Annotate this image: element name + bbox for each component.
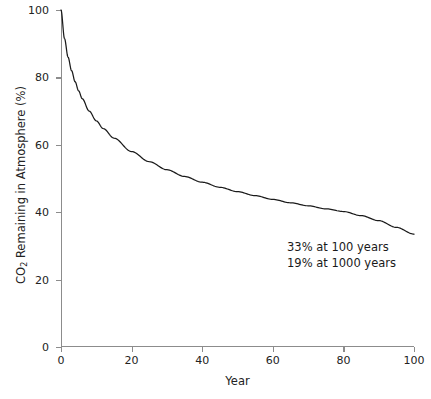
y-tick-40 <box>56 212 61 213</box>
x-tick-20 <box>132 347 133 352</box>
y-axis-title: CO2 Remaining in Atmosphere (%) <box>14 15 28 355</box>
x-tick-label-20: 20 <box>112 354 152 367</box>
y-tick-80 <box>56 77 61 78</box>
x-axis-line <box>61 346 414 347</box>
x-tick-label-40: 40 <box>182 354 222 367</box>
x-tick-label-60: 60 <box>253 354 293 367</box>
co2-decay-chart: 020406080100 020406080100 33% at 100 yea… <box>0 0 431 399</box>
x-tick-0 <box>61 347 62 352</box>
x-tick-label-0: 0 <box>41 354 81 367</box>
x-axis-title: Year <box>61 374 414 388</box>
annotation-33-percent: 33% at 100 years <box>287 240 389 254</box>
y-axis-title-subscript: 2 <box>20 262 29 267</box>
x-tick-label-80: 80 <box>323 354 363 367</box>
x-tick-40 <box>202 347 203 352</box>
y-tick-60 <box>56 145 61 146</box>
y-axis-title-suffix: Remaining in Atmosphere (%) <box>14 86 28 262</box>
x-tick-label-100: 100 <box>394 354 431 367</box>
x-tick-60 <box>273 347 274 352</box>
x-tick-100 <box>414 347 415 352</box>
y-tick-100 <box>56 10 61 11</box>
x-tick-80 <box>343 347 344 352</box>
y-axis-title-prefix: CO <box>14 267 28 284</box>
data-curve <box>0 0 431 399</box>
y-tick-20 <box>56 280 61 281</box>
y-axis-line <box>61 10 62 347</box>
annotation-19-percent: 19% at 1000 years <box>287 256 396 270</box>
